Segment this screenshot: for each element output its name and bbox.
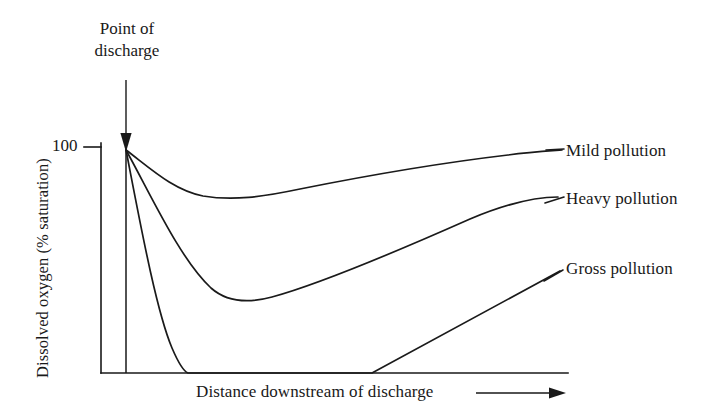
discharge-arrow bbox=[120, 80, 131, 152]
axis-lines bbox=[84, 143, 568, 373]
x-axis-direction-arrow bbox=[476, 387, 566, 398]
dissolved-oxygen-sag-curve-figure: Point of discharge 100 Dissolved oxygen … bbox=[0, 0, 719, 420]
series-label-heavy-pollution: Heavy pollution bbox=[566, 189, 678, 209]
leader-gross bbox=[544, 270, 563, 281]
curve-mild-pollution bbox=[126, 150, 562, 198]
series-label-mild-pollution: Mild pollution bbox=[566, 141, 666, 161]
chart-canvas bbox=[0, 0, 719, 420]
series-label-gross-pollution: Gross pollution bbox=[566, 259, 673, 279]
discharge-annotation-line1: Point of bbox=[88, 18, 166, 40]
y-axis-title: Dissolved oxygen (% saturation) bbox=[33, 158, 53, 378]
x-axis-title: Distance downstream of discharge bbox=[196, 382, 434, 402]
leader-mild bbox=[546, 149, 564, 150]
label-leader-lines bbox=[544, 149, 564, 281]
discharge-annotation-line2: discharge bbox=[88, 40, 166, 62]
curve-gross-pollution bbox=[126, 150, 560, 373]
point-of-discharge-annotation: Point of discharge bbox=[88, 18, 166, 62]
curve-heavy-pollution bbox=[126, 150, 558, 301]
y-axis-tick-label-100: 100 bbox=[52, 136, 78, 156]
